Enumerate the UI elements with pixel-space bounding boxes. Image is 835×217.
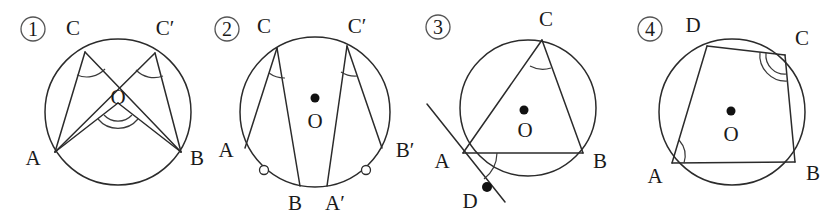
figure-3-label-d: D [462,189,477,213]
figure-4-number-label: 4 [645,18,655,40]
figure-3-angle-mark-a [484,153,497,179]
figure-4-angle-mark-c-inner [766,53,787,74]
figure-3-label-c: C [539,7,553,31]
figure-2-chord-c-prime-a-prime [327,46,347,186]
figure-3-center-dot [520,106,529,115]
figure-1-radius-ob [118,103,181,152]
figure-3-angle-mark-c [530,66,551,69]
figure-4-label-a: A [647,164,663,188]
figure-2-chord-c-prime-b-prime [347,46,382,148]
figure-2-label-a-prime: A′ [325,191,345,215]
figure-1-angle-mark-c [77,69,105,77]
figure-2-label-c: C [257,14,271,38]
figure-2-label-a: A [218,138,234,162]
figure-1-chord-bc [85,52,181,152]
figure-3-label-b: B [593,149,607,173]
figure-2: 2 C C′ A B′ B A′ O [205,0,430,217]
figure-4-angle-mark-c-outer [760,52,788,81]
figure-1-radius-oa [55,103,118,152]
figure-1-label-c-prime: C′ [156,16,175,40]
figure-1: 1 C C′ A B O [0,0,210,217]
figure-1-label-a: A [25,146,41,170]
figure-4-label-c: C [795,26,809,50]
figure-1-angle-mark-o-inner [104,115,132,121]
figure-2-number-label: 2 [222,18,232,40]
figure-1-label-c: C [66,16,80,40]
figure-2-label-b-prime: B′ [396,138,415,162]
figure-3-chord-cb [542,40,583,153]
figure-1-number-label: 1 [28,18,38,40]
figure-4-angle-mark-a [679,140,685,163]
figure-1-label-b: B [190,146,204,170]
figure-1-chord-bc-prime [155,53,181,152]
figure-2-chord-cb [277,48,300,186]
figure-4-label-d: D [685,13,700,37]
figure-3-point-d-dot [482,182,492,192]
figure-3-label-o: O [517,118,532,142]
figure-4-label-b: B [806,161,820,185]
figure-4-side-cb [785,55,795,162]
figure-1-angle-mark-o-outer [98,119,138,128]
figure-2-arc-tick-ab [260,166,269,175]
figure-4-number: 4 [638,17,662,41]
figure-2-chord-ca [245,48,277,148]
figure-3-label-a: A [434,149,450,173]
figure-row: 1 C C′ A B O 2 [0,0,835,217]
figure-2-label-b: B [288,191,302,215]
figure-3-number: 3 [426,15,450,39]
figure-4-label-o: O [723,122,738,146]
figure-2-arc-tick-a-prime-b-prime [362,166,371,175]
figure-1-label-o: O [110,85,125,109]
figure-4-center-dot [727,107,736,116]
figure-1-number: 1 [21,17,45,41]
figure-2-label-c-prime: C′ [348,14,367,38]
figure-4: 4 D C A B O [630,0,835,217]
figure-2-number: 2 [215,17,239,41]
figure-4-side-ab [672,162,795,163]
figure-3: 3 C A B D O [420,0,635,217]
figure-2-label-o: O [307,109,322,133]
figure-2-center-dot [311,94,320,103]
figure-4-side-dc [707,46,785,55]
figure-1-angle-mark-c-prime [136,70,163,78]
figure-3-number-label: 3 [433,16,443,38]
